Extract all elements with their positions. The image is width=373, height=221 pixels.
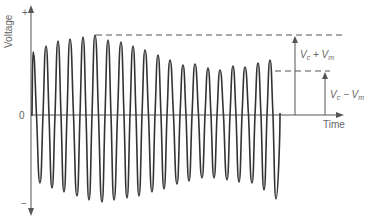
- time-axis-label: Time: [323, 119, 345, 130]
- time-axis-arrow-icon: [336, 112, 344, 118]
- max-amplitude-label: Vc + Vm: [300, 49, 334, 61]
- voltage-plus-label: +: [22, 7, 28, 18]
- min-amplitude-label: Vc − Vm: [330, 89, 364, 101]
- am-waveform-diagram: Voltage + − 0 Time Vc + Vm Vc − Vm: [0, 0, 373, 221]
- modulated-waveform: [31, 35, 280, 202]
- min-amplitude-arrowhead-icon: [322, 72, 328, 79]
- voltage-minus-label: −: [21, 198, 27, 209]
- max-amplitude-arrowhead-icon: [292, 36, 298, 43]
- voltage-axis-down-arrow-icon: [28, 208, 34, 216]
- zero-label: 0: [19, 110, 25, 121]
- voltage-axis-up-arrow-icon: [28, 5, 34, 13]
- voltage-axis-label: Voltage: [3, 14, 14, 48]
